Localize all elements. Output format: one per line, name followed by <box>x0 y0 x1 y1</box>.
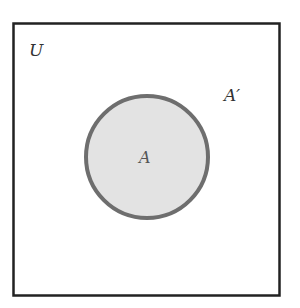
universe-label: U <box>29 40 44 60</box>
set-a-label: A <box>137 148 151 167</box>
complement-label: A′ <box>222 85 240 105</box>
venn-diagram: U A A′ <box>0 0 300 308</box>
